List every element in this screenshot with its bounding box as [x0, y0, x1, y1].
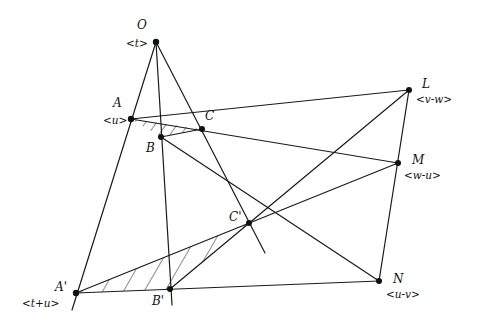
point-b: [158, 134, 164, 140]
triangle-abc-shading: [131, 119, 202, 137]
label-a: A: [112, 96, 122, 110]
diagram-canvas: O <t> A <u> B C L <v-w> M <w-u> N <u-v> …: [0, 0, 492, 326]
label-o: O: [137, 18, 147, 32]
label-n-coord: <u-v>: [386, 288, 420, 300]
point-n: [376, 278, 382, 284]
label-l: L: [421, 77, 430, 91]
label-a-prime: A': [54, 280, 67, 294]
point-a: [128, 116, 134, 122]
point-o: [153, 39, 159, 45]
point-a-prime: [73, 290, 79, 296]
label-a-coord: <u>: [103, 114, 127, 126]
label-b: B: [145, 141, 155, 155]
label-o-coord: <t>: [126, 37, 148, 49]
point-c-prime: [246, 220, 252, 226]
label-m: M: [411, 153, 425, 167]
point-c: [199, 126, 205, 132]
label-c: C: [205, 109, 214, 123]
label-n: N: [392, 272, 404, 286]
label-c-prime: C': [229, 210, 241, 224]
line-a1-c1-m: [76, 163, 398, 293]
line-l-m-n: [379, 90, 409, 281]
line-a-b-m: [131, 119, 398, 163]
point-l: [406, 87, 412, 93]
label-b-prime: B': [151, 294, 164, 308]
point-m: [395, 160, 401, 166]
label-m-coord: <w-u>: [404, 169, 441, 181]
label-a-prime-coord: <t+u>: [22, 297, 59, 309]
point-b-prime: [167, 286, 173, 292]
line-a-c-l: [131, 90, 409, 119]
label-l-coord: <v-w>: [416, 93, 452, 105]
